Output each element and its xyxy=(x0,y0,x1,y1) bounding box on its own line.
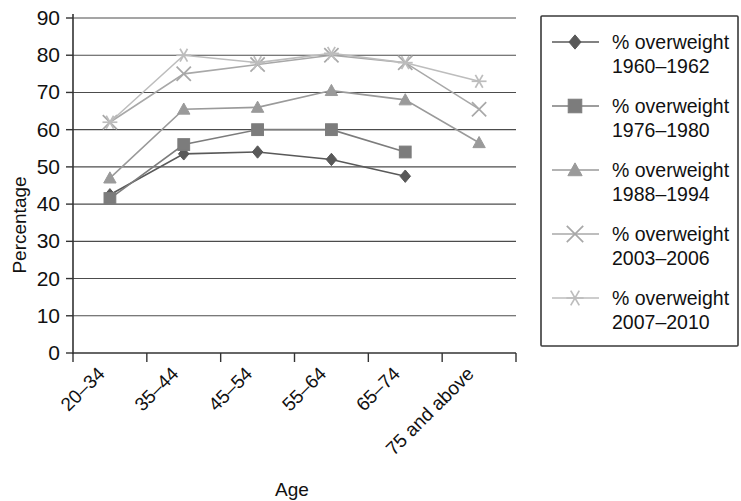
data-series-group xyxy=(102,47,486,204)
data-point-square-marker xyxy=(568,99,582,113)
data-point-square-marker xyxy=(252,124,264,136)
series-0 xyxy=(105,146,411,201)
y-axis-tick-label: 40 xyxy=(37,192,60,215)
y-axis-tick-label: 70 xyxy=(37,80,60,103)
series-2 xyxy=(104,84,486,183)
series-line xyxy=(110,55,479,122)
y-axis-tick-label: 0 xyxy=(48,341,60,364)
legend-label-line2: 1976–1980 xyxy=(612,119,710,141)
data-point-triangle-marker xyxy=(473,136,485,147)
legend-label-line1: % overweight xyxy=(612,31,730,53)
y-axis-tick-label: 20 xyxy=(37,267,60,290)
series-3 xyxy=(103,48,486,129)
data-point-diamond-marker xyxy=(400,170,411,182)
legend-label-line2: 1988–1994 xyxy=(612,183,710,205)
series-line xyxy=(110,53,479,122)
legend-label-line1: % overweight xyxy=(612,223,730,245)
data-point-diamond-marker xyxy=(252,146,263,158)
y-axis-tick-label: 90 xyxy=(37,6,60,29)
x-axis-tick-label: 35–44 xyxy=(130,363,183,416)
chart-canvas: 0102030405060708090 20–3435–4445–5455–64… xyxy=(0,0,741,501)
legend-label-line2: 1960–1962 xyxy=(612,55,710,77)
data-point-asterisk-marker xyxy=(472,75,487,88)
data-point-diamond-marker xyxy=(326,153,337,165)
data-point-square-marker xyxy=(399,146,411,158)
gridlines xyxy=(73,18,516,316)
series-line xyxy=(110,130,405,199)
legend-label-line2: 2003–2006 xyxy=(612,247,710,269)
legend-label-line1: % overweight xyxy=(612,287,730,309)
series-1 xyxy=(104,124,411,205)
y-axis-title: Percentage xyxy=(9,176,30,273)
x-axis-tick-label: 55–64 xyxy=(278,363,331,416)
y-axis-tick-marks xyxy=(66,18,73,353)
data-point-square-marker xyxy=(104,193,116,205)
x-axis-title: Age xyxy=(275,479,309,500)
data-point-square-marker xyxy=(326,124,338,136)
x-axis-tick-label: 65–74 xyxy=(352,363,405,416)
data-point-x-marker xyxy=(472,102,486,116)
y-axis-tick-labels: 0102030405060708090 xyxy=(37,6,60,364)
legend-label-line1: % overweight xyxy=(612,95,730,117)
legend-label-line1: % overweight xyxy=(612,159,730,181)
data-point-square-marker xyxy=(178,139,190,151)
y-axis-tick-label: 10 xyxy=(37,304,60,327)
data-point-triangle-marker xyxy=(325,84,337,95)
y-axis-tick-label: 60 xyxy=(37,118,60,141)
x-axis-tick-labels: 20–3435–4445–5455–6465–7475 and above xyxy=(57,363,478,460)
x-axis-tick-label: 20–34 xyxy=(57,363,110,416)
y-axis-tick-label: 30 xyxy=(37,229,60,252)
legend-label-line2: 2007–2010 xyxy=(612,311,710,333)
y-axis-tick-label: 50 xyxy=(37,155,60,178)
x-axis-tick-label: 45–54 xyxy=(204,363,257,416)
x-axis-tick-marks xyxy=(73,353,516,362)
chart-figure: 0102030405060708090 20–3435–4445–5455–64… xyxy=(0,0,741,501)
y-axis-tick-label: 80 xyxy=(37,43,60,66)
